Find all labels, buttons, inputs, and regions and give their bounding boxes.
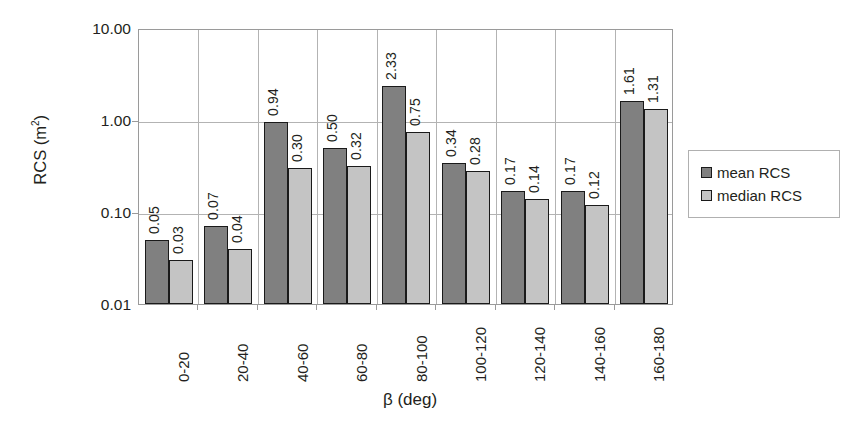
- x-axis-tick-mark: [495, 305, 496, 310]
- x-axis-tick-mark: [316, 305, 317, 310]
- bar-value-label: 0.34: [444, 129, 458, 157]
- bar-value-label: 0.75: [408, 97, 422, 125]
- bar-value-label: 0.17: [563, 157, 577, 185]
- bar-mean[interactable]: [382, 86, 406, 304]
- x-axis-tick-label: 100-120: [473, 327, 488, 382]
- bar-value-label: 0.50: [325, 114, 339, 142]
- bar-mean[interactable]: [442, 163, 466, 304]
- legend-label: median RCS: [717, 188, 802, 203]
- bar-group: 0.170.12: [555, 30, 614, 304]
- bar-mean[interactable]: [323, 148, 347, 304]
- bar-value-label: 0.05: [147, 206, 161, 234]
- bar-median[interactable]: [525, 199, 549, 304]
- x-axis-title: β (deg): [290, 390, 530, 410]
- legend: mean RCSmedian RCS: [688, 150, 840, 218]
- x-axis-tick-label: 160-180: [651, 327, 666, 382]
- bar-median[interactable]: [228, 249, 252, 304]
- bar-mean[interactable]: [561, 191, 585, 304]
- bar-value-label: 0.04: [230, 215, 244, 243]
- x-axis-tick-label: 80-100: [414, 335, 429, 382]
- x-axis-tick-label: 40-60: [295, 344, 310, 382]
- bar-median[interactable]: [406, 132, 430, 305]
- bar-group: 0.500.32: [317, 30, 376, 304]
- bar-group: 0.340.28: [436, 30, 495, 304]
- x-axis-tick-mark: [376, 305, 377, 310]
- bar-median[interactable]: [169, 260, 193, 304]
- x-axis-tick-mark: [197, 305, 198, 310]
- x-axis-tick-label: 140-160: [592, 327, 607, 382]
- y-axis-tick-label: 1.00: [11, 113, 131, 129]
- bar-mean[interactable]: [501, 191, 525, 304]
- legend-label: mean RCS: [717, 165, 790, 180]
- bar-value-label: 1.31: [646, 75, 660, 103]
- y-axis-tick-label: 10.00: [11, 21, 131, 37]
- bar-value-label: 0.14: [527, 165, 541, 193]
- x-axis-tick-mark: [435, 305, 436, 310]
- x-axis-tick-label: 60-80: [354, 344, 369, 382]
- y-axis-ticks: 10.001.000.100.01: [0, 29, 131, 305]
- bar-group: 1.611.31: [615, 30, 674, 304]
- x-axis-tick-label: 120-140: [532, 327, 547, 382]
- bar-median[interactable]: [585, 205, 609, 304]
- x-axis-tick-label: 20-40: [235, 344, 250, 382]
- x-axis-tick-mark: [554, 305, 555, 310]
- bar-group: 0.940.30: [258, 30, 317, 304]
- x-axis-tick-label: 0-20: [176, 352, 191, 382]
- bar-mean[interactable]: [145, 240, 169, 304]
- rcs-bar-chart: RCS (m2) 10.001.000.100.01 0.050.030.070…: [0, 0, 866, 434]
- bar-value-label: 0.30: [290, 134, 304, 162]
- bar-value-label: 0.28: [468, 137, 482, 165]
- x-axis-tick-mark: [614, 305, 615, 310]
- bar-median[interactable]: [288, 168, 312, 304]
- legend-item[interactable]: mean RCS: [689, 161, 839, 184]
- y-axis-tick-label: 0.10: [11, 205, 131, 221]
- bar-median[interactable]: [347, 166, 371, 304]
- bar-value-label: 0.32: [349, 131, 363, 159]
- bar-value-label: 1.61: [622, 67, 636, 95]
- bar-mean[interactable]: [204, 226, 228, 304]
- bar-group: 2.330.75: [377, 30, 436, 304]
- bar-value-label: 0.17: [503, 157, 517, 185]
- bar-value-label: 2.33: [384, 52, 398, 80]
- bar-mean[interactable]: [264, 122, 288, 304]
- bar-value-label: 0.03: [171, 226, 185, 254]
- bar-value-label: 0.07: [206, 192, 220, 220]
- bar-median[interactable]: [644, 109, 668, 304]
- bar-median[interactable]: [466, 171, 490, 304]
- bar-value-label: 0.12: [587, 171, 601, 199]
- legend-item[interactable]: median RCS: [689, 184, 839, 207]
- x-axis-tick-mark: [257, 305, 258, 310]
- y-axis-tick-label: 0.01: [11, 297, 131, 313]
- bar-value-label: 0.94: [266, 88, 280, 116]
- bar-mean[interactable]: [620, 101, 644, 304]
- legend-swatch-median: [701, 190, 712, 201]
- legend-swatch-mean: [701, 167, 712, 178]
- bar-group: 0.070.04: [198, 30, 257, 304]
- bar-group: 0.050.03: [139, 30, 198, 304]
- plot-area: 0.050.030.070.040.940.300.500.322.330.75…: [138, 29, 673, 305]
- bar-group: 0.170.14: [496, 30, 555, 304]
